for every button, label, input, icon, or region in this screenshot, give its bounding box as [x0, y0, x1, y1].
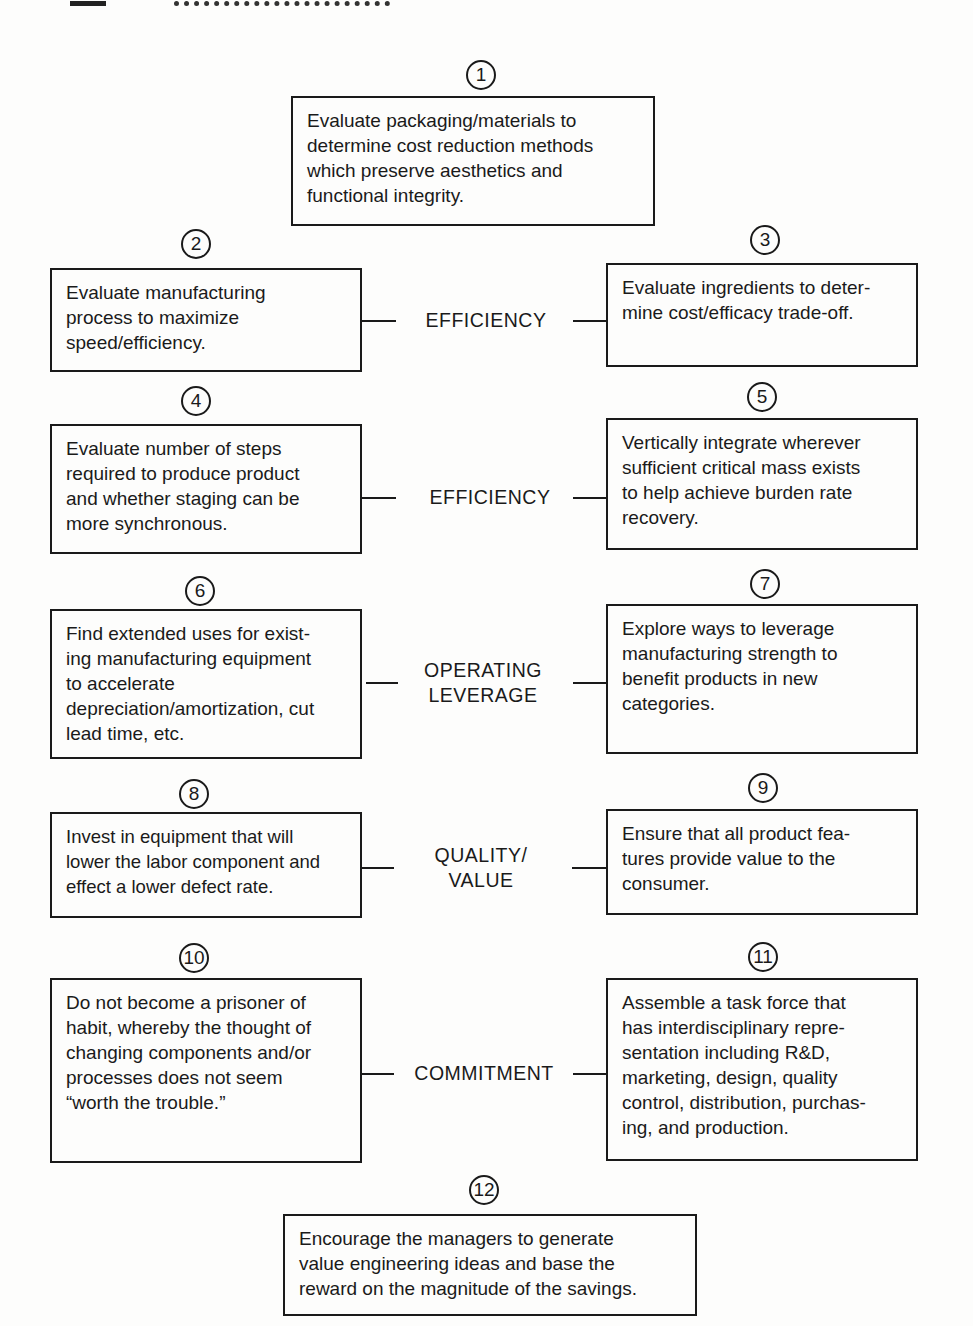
step-box-2: Evaluate manufacturing process to maximi…: [50, 268, 362, 372]
step-box-5: Vertically integrate wherever sufficient…: [606, 418, 918, 550]
connector-line: [573, 682, 606, 684]
category-label-commitment: COMMITMENT: [394, 1061, 574, 1086]
connector-line: [572, 867, 606, 869]
step-box-9: Ensure that all product fea- tures provi…: [606, 809, 918, 915]
step-box-6: Find extended uses for exist- ing manufa…: [50, 609, 362, 759]
step-number-badge: 11: [748, 942, 778, 972]
connector-line: [362, 320, 396, 322]
connector-line: [362, 497, 396, 499]
step-number-badge: 2: [181, 229, 211, 259]
step-number-badge: 10: [179, 943, 209, 973]
category-label-operating-leverage: OPERATING LEVERAGE: [393, 658, 573, 708]
page-number-fragment: [70, 0, 106, 6]
step-number-badge: 1: [466, 60, 496, 90]
step-number-badge: 5: [747, 382, 777, 412]
step-number-badge: 9: [748, 773, 778, 803]
connector-line: [362, 867, 394, 869]
step-box-1: Evaluate packaging/materials to determin…: [291, 96, 655, 226]
step-box-3: Evaluate ingredients to deter- mine cost…: [606, 263, 918, 367]
step-box-8: Invest in equipment that will lower the …: [50, 812, 362, 918]
step-number-badge: 8: [179, 779, 209, 809]
connector-line: [573, 1073, 606, 1075]
category-label-efficiency: EFFICIENCY: [400, 485, 580, 510]
step-number-badge: 12: [469, 1175, 499, 1205]
step-number-badge: 7: [750, 569, 780, 599]
step-box-12: Encourage the managers to generate value…: [283, 1214, 697, 1316]
connector-line: [362, 1073, 394, 1075]
connector-line: [573, 497, 606, 499]
step-box-7: Explore ways to leverage manufacturing s…: [606, 604, 918, 754]
step-number-badge: 6: [185, 576, 215, 606]
step-box-4: Evaluate number of steps required to pro…: [50, 424, 362, 554]
connector-line: [573, 320, 606, 322]
cropped-page-header: [70, 0, 390, 6]
category-label-quality-value: QUALITY/ VALUE: [391, 843, 571, 893]
step-number-badge: 4: [181, 386, 211, 416]
running-head-fragment: [174, 0, 390, 6]
step-number-badge: 3: [750, 225, 780, 255]
step-box-10: Do not become a prisoner of habit, where…: [50, 978, 362, 1163]
category-label-efficiency: EFFICIENCY: [396, 308, 576, 333]
step-box-11: Assemble a task force that has interdisc…: [606, 978, 918, 1161]
